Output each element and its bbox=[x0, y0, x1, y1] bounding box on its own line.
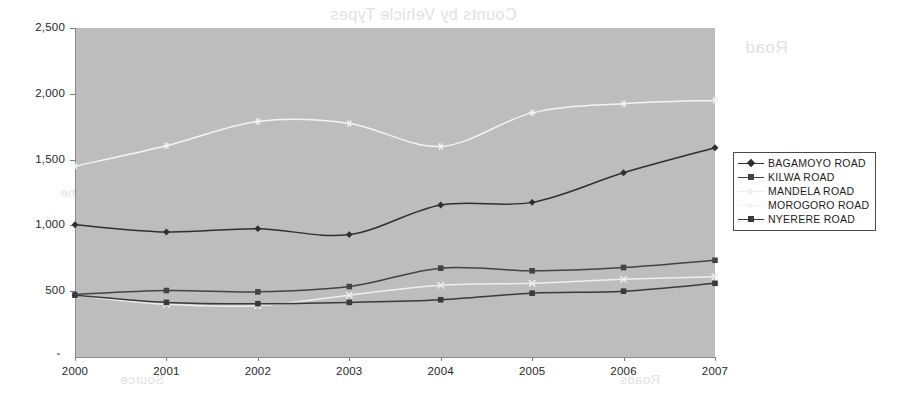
data-point-marker bbox=[163, 143, 170, 149]
x-axis-tick-mark bbox=[715, 357, 716, 361]
data-point-marker bbox=[438, 265, 444, 271]
data-series-layer bbox=[75, 28, 715, 357]
legend-item-kilwa-road[interactable]: KILWA ROAD bbox=[738, 170, 869, 184]
data-point-marker bbox=[621, 265, 627, 271]
data-point-marker bbox=[346, 231, 353, 238]
y-axis-tick-label: 500 bbox=[5, 284, 65, 296]
data-point-marker bbox=[346, 300, 352, 306]
data-point-marker bbox=[255, 301, 261, 307]
legend-item-mandela-road[interactable]: MANDELA ROAD bbox=[738, 184, 869, 198]
y-axis-tick-label: 2,000 bbox=[5, 87, 65, 99]
plot-area bbox=[75, 28, 715, 357]
x-axis-tick-label: 2000 bbox=[50, 365, 100, 377]
data-point-marker bbox=[438, 297, 444, 303]
legend-swatch-icon bbox=[738, 171, 764, 183]
ghost-text-bleedthrough: Counts by Vehicle Types bbox=[330, 6, 516, 24]
series-line-morogoro-road bbox=[75, 100, 715, 166]
x-axis-tick-label: 2007 bbox=[690, 365, 740, 377]
y-axis-tick-label: 1,000 bbox=[5, 218, 65, 230]
data-point-marker bbox=[255, 289, 261, 295]
legend-item-label: BAGAMOYO ROAD bbox=[768, 157, 866, 169]
legend-item-bagamoyo-road[interactable]: BAGAMOYO ROAD bbox=[738, 156, 869, 170]
series-line-bagamoyo-road bbox=[75, 148, 715, 236]
data-point-marker bbox=[346, 284, 352, 290]
data-point-marker bbox=[529, 290, 535, 296]
data-point-marker bbox=[529, 268, 535, 274]
x-axis-tick-label: 2006 bbox=[599, 365, 649, 377]
x-axis-tick-label: 2001 bbox=[141, 365, 191, 377]
y-axis-tick-label: 2,500 bbox=[5, 21, 65, 33]
y-axis-tick-label: 1,500 bbox=[5, 153, 65, 165]
legend-swatch-icon bbox=[738, 157, 764, 169]
legend-item-label: MOROGORO ROAD bbox=[768, 199, 869, 211]
data-point-marker bbox=[620, 101, 627, 107]
data-point-marker bbox=[621, 288, 627, 294]
data-point-marker bbox=[529, 199, 536, 206]
chart-container: Counts by Vehicle Types Road Roads Sourc… bbox=[0, 0, 909, 397]
data-point-marker bbox=[437, 143, 444, 149]
chart-legend: BAGAMOYO ROADKILWA ROADMANDELA ROADMOROG… bbox=[733, 152, 876, 231]
data-point-marker bbox=[711, 97, 718, 103]
data-point-marker bbox=[254, 118, 261, 124]
data-point-marker bbox=[437, 202, 444, 209]
legend-item-nyerere-road[interactable]: NYERERE ROAD bbox=[738, 212, 869, 226]
x-axis-tick-label: 2004 bbox=[416, 365, 466, 377]
x-axis-tick-label: 2003 bbox=[324, 365, 374, 377]
legend-swatch-icon bbox=[738, 199, 764, 211]
data-point-marker bbox=[254, 225, 261, 232]
legend-item-morogoro-road[interactable]: MOROGORO ROAD bbox=[738, 198, 869, 212]
legend-swatch-icon bbox=[738, 185, 764, 197]
legend-item-label: KILWA ROAD bbox=[768, 171, 835, 183]
x-axis-tick-label: 2002 bbox=[233, 365, 283, 377]
data-point-marker bbox=[71, 163, 78, 169]
origin-marker bbox=[57, 353, 60, 355]
data-point-marker bbox=[346, 120, 353, 126]
data-point-marker bbox=[712, 281, 718, 287]
legend-item-label: MANDELA ROAD bbox=[768, 185, 854, 197]
data-point-marker bbox=[620, 169, 627, 176]
legend-item-label: NYERERE ROAD bbox=[768, 213, 855, 225]
data-point-marker bbox=[72, 292, 78, 298]
data-point-marker bbox=[712, 144, 719, 151]
x-axis-tick-label: 2005 bbox=[507, 365, 557, 377]
x-axis-line bbox=[75, 357, 715, 358]
data-point-marker bbox=[164, 288, 170, 294]
data-point-marker bbox=[163, 229, 170, 236]
series-line-nyerere-road bbox=[75, 283, 715, 303]
data-point-marker bbox=[712, 257, 718, 263]
data-point-marker bbox=[529, 110, 536, 116]
legend-swatch-icon bbox=[738, 213, 764, 225]
data-point-marker bbox=[164, 300, 170, 306]
ghost-text-bleedthrough: Road bbox=[745, 38, 788, 58]
data-point-marker bbox=[72, 221, 79, 228]
